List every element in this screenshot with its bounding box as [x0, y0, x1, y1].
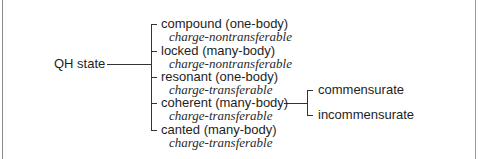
sub-branch-commensurate: commensurate: [318, 83, 404, 97]
sub-branch-incommensurate: incommensurate: [318, 108, 414, 122]
root-node-label: QH state: [54, 57, 105, 71]
branch-property: charge-transferable: [169, 109, 273, 123]
branch-property: charge-transferable: [169, 136, 273, 150]
branch-property: charge-nontransferable: [169, 30, 292, 44]
